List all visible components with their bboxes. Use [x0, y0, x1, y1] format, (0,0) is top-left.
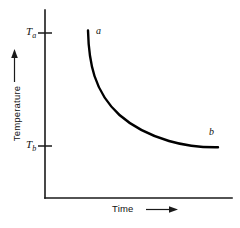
time-arrow-icon: [146, 206, 178, 213]
tick-label-ta-sub: a: [32, 31, 36, 40]
cooling-curve-figure: Ta Tb a b Temperature Time: [0, 0, 240, 228]
tick-label-tb-sub: b: [32, 144, 36, 153]
curve-start-label: a: [96, 26, 101, 36]
time-axis-label-group: Time: [112, 203, 134, 214]
time-axis-label: Time: [112, 203, 134, 214]
upper-temperature-tick-label: Ta: [26, 26, 36, 37]
temperature-axis-label: Temperature: [11, 64, 22, 164]
lower-temperature-tick-label: Tb: [26, 139, 36, 150]
cooling-curve-path: [88, 31, 218, 148]
curve-end-label: b: [209, 127, 214, 137]
temperature-axis-label-group: Temperature: [5, 62, 25, 172]
